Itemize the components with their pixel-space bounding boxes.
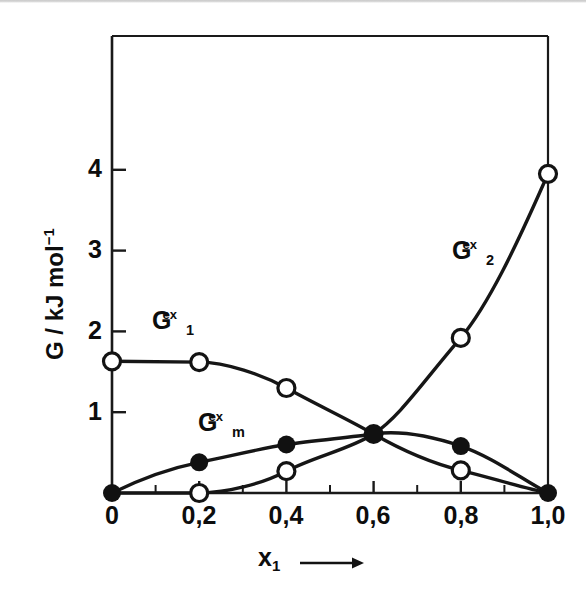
- curve-label-g2-sup: ex: [462, 237, 476, 252]
- markers-g1: [104, 353, 470, 479]
- curve-label-g1-sup: ex: [162, 307, 176, 322]
- x-tick-label-0-2: 0,2: [164, 503, 234, 528]
- y-tick-label-1: 1: [72, 399, 102, 424]
- x-axis-title: x1: [258, 545, 280, 570]
- curve-label-gm-sup: ex: [208, 409, 222, 424]
- curve-gm-stroke: [112, 433, 548, 493]
- y-tick-label-4: 4: [72, 156, 102, 181]
- y-axis-title-exponent: −1: [41, 228, 57, 245]
- x-tick-label-1-0: 1,0: [513, 503, 583, 528]
- curve-g2-stroke: [112, 174, 548, 493]
- x-tick-label-0: 0: [77, 503, 147, 528]
- curve-g1: [112, 0, 336, 393]
- curve-label-g2: Gex2: [452, 238, 494, 263]
- x-tick-label-0-4: 0,4: [251, 503, 321, 528]
- x-axis-title-text: x: [258, 543, 272, 571]
- y-axis-title: G / kJ mol−1: [42, 228, 67, 360]
- plot-frame: [112, 36, 548, 493]
- y-tick-label-2: 2: [72, 318, 102, 343]
- y-axis-title-text: G / kJ mol: [41, 245, 68, 360]
- x-tick-label-0-6: 0,6: [338, 503, 408, 528]
- x-tick-label-0-8: 0,8: [426, 503, 496, 528]
- curve-g1-stroke: [112, 361, 548, 493]
- curve-label-g2-sub: 2: [486, 252, 494, 268]
- curve-label-gm-sub: m: [232, 424, 245, 440]
- curve-label-gm: Gexm: [198, 410, 245, 435]
- y-tick-label-3: 3: [72, 237, 102, 262]
- curve-label-g1-sub: 1: [186, 322, 194, 338]
- x-axis-title-subscript: 1: [272, 557, 280, 574]
- y-axis-major-ticks: [112, 170, 126, 412]
- x-axis-arrow-icon: [300, 558, 364, 569]
- chart-figure: 1 2 3 4 0 0,2 0,4 0,6 0,8 1,0 G / kJ mol…: [0, 0, 586, 601]
- curve-label-g1: Gex1: [152, 308, 194, 333]
